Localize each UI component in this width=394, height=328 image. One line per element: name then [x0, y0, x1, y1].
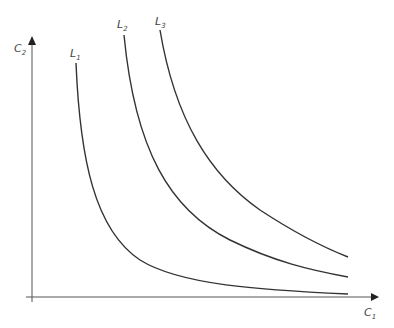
- y-axis-arrow-icon: [28, 36, 36, 45]
- curve-l1: [76, 63, 348, 294]
- curve-l3: [160, 30, 348, 257]
- diagram-canvas: C2 C1 L1 L2 L3: [0, 0, 394, 328]
- x-axis-label: C1: [364, 306, 376, 321]
- y-axis-label: C2: [14, 42, 27, 57]
- curve-l2-label: L2: [117, 18, 128, 33]
- x-axis-arrow-icon: [371, 293, 379, 301]
- curve-l2: [124, 35, 348, 277]
- curve-l1-label: L1: [70, 47, 81, 62]
- curve-l3-label: L3: [155, 15, 166, 30]
